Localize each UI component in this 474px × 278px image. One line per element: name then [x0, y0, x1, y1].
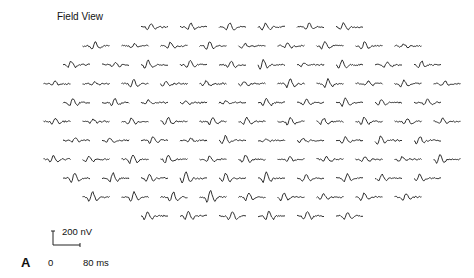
trace-r8-c8	[317, 157, 344, 162]
trace-r8-c7	[278, 156, 305, 161]
trace-r3-c7	[297, 63, 324, 67]
trace-r4-c9	[356, 81, 383, 86]
trace-r9-c9	[375, 174, 402, 181]
trace-r7-c9	[375, 136, 402, 144]
trace-r4-c7	[278, 79, 305, 88]
trace-r10-c9	[395, 194, 422, 200]
trace-r8-c1	[44, 156, 71, 162]
trace-r2-c7	[317, 42, 344, 50]
trace-r5-c4	[180, 101, 207, 105]
trace-r4-c11	[434, 81, 461, 85]
trace-r3-c4	[180, 60, 207, 67]
trace-r5-c5	[219, 101, 246, 104]
trace-r7-c8	[336, 137, 363, 144]
trace-r5-c6	[258, 98, 285, 106]
trace-r2-c3	[161, 42, 188, 48]
trace-r6-c2	[83, 119, 110, 124]
trace-r1-c4	[258, 23, 285, 30]
scale-voltage-label: 200 nV	[62, 226, 92, 237]
trace-r9-c6	[258, 172, 285, 183]
trace-r9-c1	[63, 174, 90, 183]
trace-r2-c6	[278, 43, 305, 48]
trace-r4-c8	[317, 79, 344, 88]
trace-r6-c4	[161, 117, 188, 124]
trace-r8-c9	[356, 157, 383, 162]
trace-r7-c10	[414, 137, 441, 144]
trace-r3-c9	[375, 62, 402, 68]
trace-r3-c6	[258, 59, 285, 69]
trace-r7-c5	[219, 135, 246, 143]
trace-r10-c1	[83, 192, 110, 202]
trace-r10-c5	[239, 193, 266, 201]
trace-r1-c6	[336, 23, 363, 30]
trace-r4-c3	[122, 79, 149, 87]
trace-r7-c2	[102, 138, 129, 142]
trace-r3-c8	[336, 60, 363, 68]
trace-r10-c3	[161, 192, 188, 201]
trace-r7-c6	[258, 139, 285, 142]
trace-r5-c8	[336, 98, 363, 107]
trace-r10-c6	[278, 193, 305, 201]
trace-r9-c7	[297, 175, 324, 182]
trace-r8-c4	[161, 156, 188, 163]
trace-r6-c9	[356, 117, 383, 124]
trace-r10-c8	[356, 193, 383, 201]
trace-r6-c7	[278, 118, 305, 126]
trace-r4-c1	[44, 81, 71, 85]
trace-r3-c3	[141, 60, 168, 68]
trace-r5-c1	[63, 99, 90, 106]
trace-r1-c2	[180, 23, 207, 29]
trace-r7-c4	[180, 138, 207, 142]
trace-r8-c10	[395, 156, 422, 161]
trace-r4-c5	[200, 81, 227, 87]
trace-r11-c4	[258, 211, 285, 219]
trace-r10-c4	[200, 191, 227, 203]
trace-r6-c5	[200, 118, 227, 125]
trace-r1-c1	[141, 24, 168, 30]
trace-r6-c11	[434, 118, 461, 124]
panel-label: A	[21, 255, 30, 270]
trace-r8-c2	[83, 156, 110, 162]
trace-r9-c10	[414, 174, 441, 181]
trace-r7-c3	[141, 137, 168, 144]
trace-r5-c9	[375, 100, 402, 105]
trace-r11-c5	[297, 212, 324, 220]
trace-r2-c8	[356, 42, 383, 49]
trace-r9-c4	[180, 172, 207, 183]
scale-time-start-label: 0	[48, 257, 53, 268]
trace-r4-c10	[395, 80, 422, 87]
trace-r5-c3	[141, 100, 168, 104]
trace-r3-c1	[63, 61, 90, 67]
trace-r5-c2	[102, 99, 129, 106]
trace-r10-c2	[122, 192, 149, 202]
scale-time-end-label: 80 ms	[83, 257, 109, 268]
trace-r8-c3	[122, 155, 149, 164]
trace-r6-c10	[395, 119, 422, 124]
trace-r9-c2	[102, 173, 129, 182]
trace-r2-c4	[200, 42, 227, 49]
trace-r10-c7	[317, 194, 344, 200]
trace-r2-c1	[83, 42, 110, 49]
trace-r8-c5	[200, 156, 227, 161]
trace-r5-c7	[297, 99, 324, 105]
trace-r4-c6	[239, 82, 266, 86]
trace-r8-c6	[239, 156, 266, 163]
trace-r9-c3	[141, 174, 168, 181]
trace-r2-c9	[395, 44, 422, 47]
trace-r9-c5	[219, 173, 246, 181]
trace-r11-c3	[219, 212, 246, 220]
trace-r6-c6	[239, 117, 266, 124]
trace-r9-c8	[336, 174, 363, 182]
trace-r11-c6	[336, 213, 363, 220]
trace-r6-c1	[44, 119, 71, 125]
trace-r1-c3	[219, 23, 246, 30]
trace-r4-c2	[83, 82, 110, 86]
trace-r2-c2	[122, 44, 149, 48]
trace-r3-c5	[219, 61, 246, 67]
trace-r6-c8	[317, 119, 344, 125]
trace-r6-c3	[122, 118, 149, 124]
trace-r11-c1	[141, 212, 168, 220]
trace-r2-c5	[239, 43, 266, 48]
trace-r5-c10	[414, 99, 441, 105]
trace-r8-c11	[434, 155, 461, 164]
